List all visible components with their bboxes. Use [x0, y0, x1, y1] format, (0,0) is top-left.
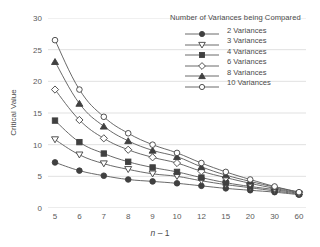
- x-axis-title-rest: – 1: [155, 228, 169, 238]
- data-point-marker: [150, 165, 155, 170]
- data-point-marker: [77, 87, 83, 93]
- legend-item[interactable]: 8 Variances: [170, 67, 320, 77]
- x-tick-label: 5: [44, 212, 66, 221]
- x-tick-label: 30: [264, 212, 286, 221]
- data-point-marker: [52, 160, 58, 166]
- data-point-marker: [247, 177, 253, 183]
- x-tick-label: 7: [93, 212, 115, 221]
- x-tick-label: 20: [239, 212, 261, 221]
- legend-item-label: 2 Variances: [227, 26, 267, 35]
- legend-item-label: 3 Variances: [227, 36, 267, 45]
- y-tick-label: 25: [14, 46, 42, 55]
- legend-marker-open-diamond-icon: [184, 57, 220, 67]
- data-point-marker: [125, 177, 131, 183]
- data-point-marker: [199, 84, 204, 89]
- data-point-marker: [101, 151, 106, 156]
- legend-marker-filled-circle-icon: [184, 25, 220, 35]
- legend-title: Number of Variances being Compared: [170, 13, 320, 22]
- legend-marker-filled-triangle-up-icon: [184, 67, 220, 77]
- x-tick-label: 15: [215, 212, 237, 221]
- legend-marker-open-triangle-down-icon: [184, 36, 220, 46]
- data-point-marker: [149, 154, 156, 161]
- data-point-marker: [199, 160, 205, 166]
- y-tick-label: 15: [14, 109, 42, 118]
- data-point-marker: [272, 184, 278, 190]
- data-point-marker: [223, 169, 229, 175]
- legend-marker-filled-square-icon: [184, 46, 220, 56]
- y-tick-label: 0: [14, 204, 42, 213]
- x-tick-label: 12: [190, 212, 212, 221]
- data-point-marker: [126, 159, 131, 164]
- legend-item[interactable]: 2 Variances: [170, 25, 320, 35]
- data-point-marker: [51, 86, 58, 93]
- y-tick-label: 10: [14, 141, 42, 150]
- y-tick-label: 20: [14, 77, 42, 86]
- x-tick-label: 8: [117, 212, 139, 221]
- legend-items: 2 Variances3 Variances4 Variances6 Varia…: [170, 25, 320, 88]
- x-tick-label: 6: [68, 212, 90, 221]
- data-point-marker: [174, 150, 180, 156]
- legend-item-label: 4 Variances: [227, 47, 267, 56]
- y-tick-label: 5: [14, 172, 42, 181]
- legend-item[interactable]: 4 Variances: [170, 46, 320, 56]
- legend: Number of Variances being Compared 2 Var…: [170, 13, 320, 88]
- x-tick-label: 9: [142, 212, 164, 221]
- data-point-marker: [52, 118, 57, 123]
- legend-item-label: 10 Variances: [227, 78, 271, 87]
- legend-item[interactable]: 10 Variances: [170, 78, 320, 88]
- data-point-marker: [199, 175, 204, 180]
- legend-marker-open-circle-icon: [184, 78, 220, 88]
- data-point-marker: [296, 189, 302, 195]
- data-point-marker: [76, 100, 83, 106]
- data-point-marker: [52, 59, 59, 65]
- data-point-marker: [125, 130, 131, 136]
- data-point-marker: [52, 37, 58, 43]
- data-point-marker: [52, 137, 59, 143]
- data-point-marker: [149, 147, 156, 153]
- data-point-marker: [101, 114, 107, 120]
- data-point-marker: [101, 173, 107, 179]
- data-point-marker: [125, 138, 132, 144]
- data-point-marker: [77, 168, 83, 174]
- y-tick-label: 30: [14, 14, 42, 23]
- legend-item[interactable]: 6 Variances: [170, 57, 320, 67]
- legend-item-label: 8 Variances: [227, 68, 267, 77]
- data-point-marker: [100, 135, 107, 142]
- data-point-marker: [125, 146, 132, 153]
- x-tick-label: 10: [166, 212, 188, 221]
- data-point-marker: [100, 161, 107, 167]
- x-axis-title: n – 1: [0, 228, 320, 238]
- data-point-marker: [150, 142, 156, 148]
- legend-item-label: 6 Variances: [227, 57, 267, 66]
- data-point-marker: [174, 181, 180, 187]
- data-point-marker: [173, 159, 180, 166]
- legend-item[interactable]: 3 Variances: [170, 36, 320, 46]
- data-point-marker: [76, 152, 83, 158]
- x-tick-label: 60: [288, 212, 310, 221]
- critical-value-chart: Critical Value 051015202530 567891012152…: [0, 0, 320, 247]
- data-point-marker: [150, 179, 156, 185]
- data-point-marker: [77, 139, 82, 144]
- data-point-marker: [174, 169, 179, 174]
